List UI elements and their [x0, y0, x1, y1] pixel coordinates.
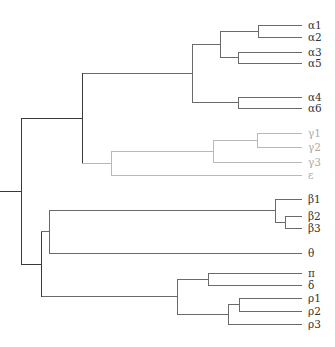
- leaf-label: γ2: [308, 141, 321, 153]
- leaf-label: β2: [308, 210, 321, 222]
- dendrogram: α1α2α3α5α4α6γ1γ2γ3εβ1β2β3θπδρ1ρ2ρ3: [0, 0, 335, 347]
- leaf-label: π: [308, 267, 315, 279]
- leaf-label: α2: [308, 31, 322, 43]
- leaf-label: δ: [308, 279, 314, 291]
- leaf-label: ρ1: [308, 292, 321, 304]
- leaf-label: γ1: [308, 127, 321, 139]
- branches: [0, 25, 302, 324]
- leaf-label: γ3: [308, 156, 321, 168]
- leaf-label: α1: [308, 19, 322, 31]
- leaf-labels: α1α2α3α5α4α6γ1γ2γ3εβ1β2β3θπδρ1ρ2ρ3: [308, 19, 322, 330]
- leaf-label: ρ2: [308, 305, 321, 317]
- leaf-label: β1: [308, 193, 321, 205]
- leaf-label: ρ3: [308, 318, 321, 330]
- leaf-label: ε: [308, 169, 313, 181]
- leaf-label: α6: [308, 102, 322, 114]
- leaf-label: β3: [308, 222, 321, 234]
- leaf-label: θ: [308, 247, 314, 259]
- leaf-label: α5: [308, 57, 322, 69]
